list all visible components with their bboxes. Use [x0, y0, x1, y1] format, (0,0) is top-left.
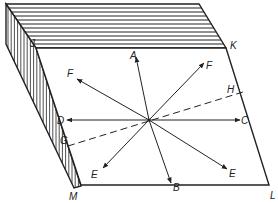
- point-label-h: H: [227, 84, 235, 95]
- arrow-label-a: A: [129, 50, 137, 61]
- vertex-label-m: M: [69, 191, 78, 202]
- arrow-label-b: B: [173, 182, 180, 193]
- arrow-label-f-left: F: [67, 68, 74, 79]
- arrow-label-e-right: E: [229, 168, 236, 179]
- vertex-label-k: K: [230, 40, 238, 51]
- crystal-block-diagram: JKLMABCDEEFFGH: [0, 0, 278, 203]
- vertex-label-j: J: [29, 38, 36, 49]
- arrow-label-d: D: [57, 115, 64, 126]
- vertex-label-l: L: [270, 190, 276, 201]
- point-label-g: G: [60, 135, 68, 146]
- arrow-label-f-right: F: [206, 60, 213, 71]
- arrow-label-c: C: [241, 115, 249, 126]
- arrow-label-e-left: E: [91, 169, 98, 180]
- center-point: [147, 118, 150, 121]
